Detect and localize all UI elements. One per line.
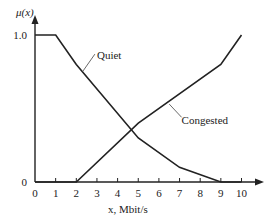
series-line-quiet [35,35,242,182]
membership-chart: 01234567891001.0 μ(x) x, Mbit/s QuietCon… [0,0,268,221]
x-tick-label: 9 [218,187,224,199]
x-tick-label: 10 [236,187,248,199]
x-axis-arrow-icon [255,179,264,186]
y-tick-label: 1.0 [13,29,27,41]
x-tick-label: 6 [156,187,162,199]
x-tick-label: 5 [136,187,142,199]
annotation-label-congested: Congested [182,114,229,126]
x-tick-label: 4 [115,187,121,199]
y-axis-label: μ(x) [15,6,34,19]
x-tick-label: 7 [177,187,183,199]
annotation-leader [82,54,94,72]
annotation-leader [169,104,181,117]
x-tick-label: 0 [32,187,38,199]
series-line-congested [35,35,242,182]
annotation-label-quiet: Quiet [97,49,121,61]
x-tick-label: 3 [94,187,100,199]
x-tick-label: 2 [74,187,80,199]
x-tick-label: 8 [197,187,203,199]
series-group [35,35,242,182]
axes: 01234567891001.0 [13,15,264,199]
annotations: QuietCongested [82,49,228,127]
y-tick-label: 0 [22,176,28,188]
x-tick-label: 1 [53,187,59,199]
x-axis-label: x, Mbit/s [108,203,148,215]
